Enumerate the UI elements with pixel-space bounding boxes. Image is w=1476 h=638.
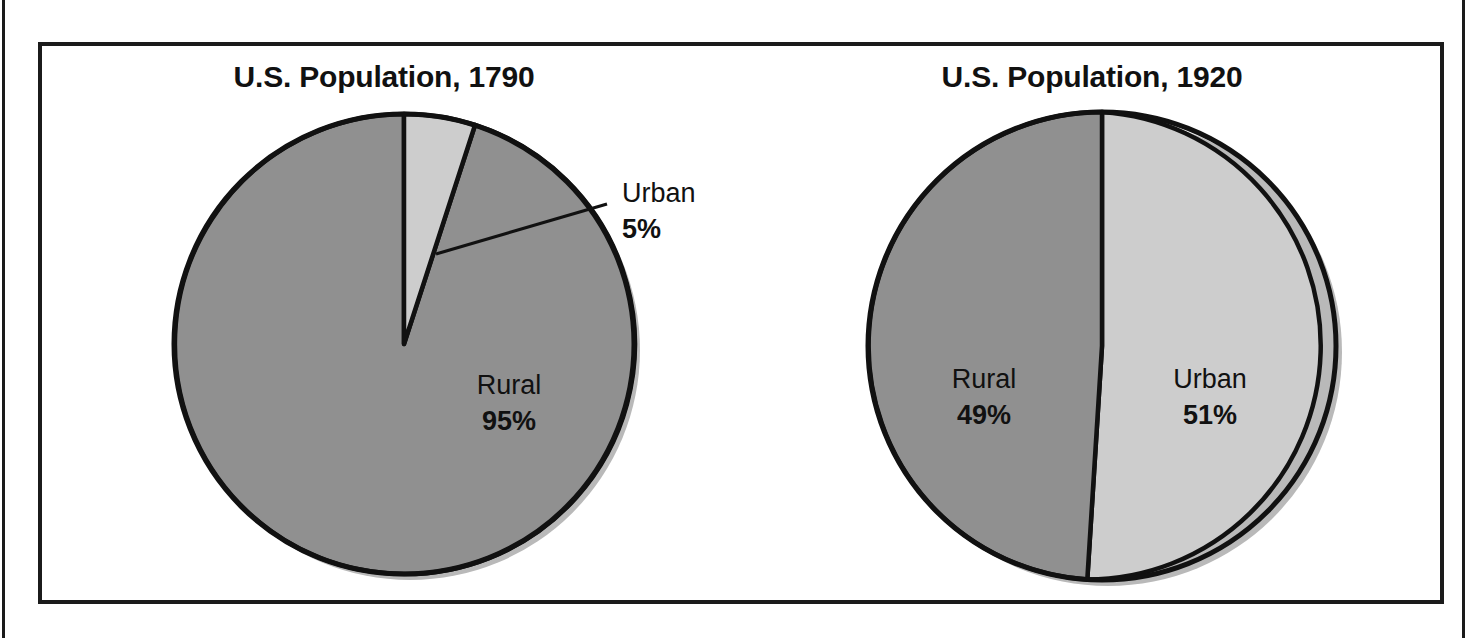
pie-chart-1790: Urban 5% Rural 95% (54, 96, 714, 596)
urban-callout-label-1790: Urban (622, 178, 696, 208)
page-edge-right-rule (1462, 0, 1465, 638)
urban-label-1920: Urban (1173, 364, 1247, 394)
page-canvas: U.S. Population, 1790 Urban 5% Rural 95% (0, 0, 1476, 638)
pie-chart-1920: Rural 49% Urban 51% (762, 96, 1422, 596)
chart-panel-1920: U.S. Population, 1920 Rural 49% Urban 51… (762, 46, 1422, 600)
pie-slice-rural-1920[interactable] (869, 112, 1102, 580)
page-edge-left-rule (2, 0, 5, 638)
chart-title-1790: U.S. Population, 1790 (54, 60, 714, 94)
rural-percent-1920: 49% (957, 400, 1011, 430)
rural-label-1920: Rural (952, 364, 1017, 394)
rural-percent-1790: 95% (482, 406, 536, 436)
chart-title-1920: U.S. Population, 1920 (762, 60, 1422, 94)
chart-panel-1790: U.S. Population, 1790 Urban 5% Rural 95% (54, 46, 714, 600)
figure-frame: U.S. Population, 1790 Urban 5% Rural 95% (38, 42, 1444, 604)
urban-callout-percent-1790: 5% (622, 214, 661, 244)
pie-slice-urban-1920[interactable] (1087, 112, 1320, 580)
urban-percent-1920: 51% (1183, 400, 1237, 430)
rural-label-1790: Rural (477, 370, 542, 400)
